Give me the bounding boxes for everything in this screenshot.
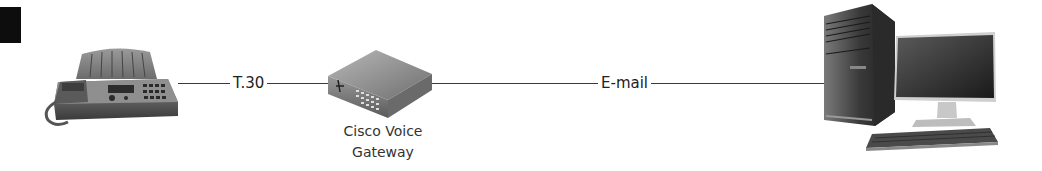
t30-protocol-label: T.30	[230, 75, 267, 91]
fax-machine-icon	[40, 44, 180, 128]
email-protocol-label: E-mail	[598, 75, 651, 91]
gateway-caption-line-2: Gateway	[318, 142, 448, 163]
voice-gateway-router-icon	[326, 48, 434, 120]
corner-marker-block	[0, 7, 21, 43]
gateway-caption-line-1: Cisco Voice	[318, 121, 448, 142]
desktop-computer-icon	[820, 2, 1005, 157]
gateway-caption: Cisco Voice Gateway	[318, 121, 448, 163]
fax-to-email-diagram: T.30 Cisco Voice Gateway	[0, 0, 1042, 171]
